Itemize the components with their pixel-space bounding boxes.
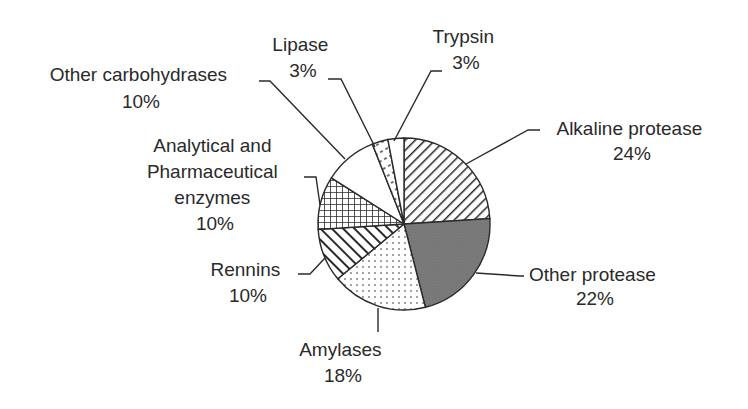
label-amylases: Amylases 18%: [299, 339, 387, 386]
label-other-carbohydrases: Other carbohydrases 10%: [50, 64, 233, 112]
leader-trypsin: [394, 71, 442, 141]
pie-slices: [318, 138, 490, 310]
label-rennins: Rennins 10%: [211, 259, 286, 306]
leader-lipase: [328, 79, 375, 147]
leader-rennins: [298, 258, 325, 274]
label-trypsin: Trypsin 3%: [433, 26, 500, 73]
leader-other-protease: [476, 273, 524, 276]
pie-slice-alkaline-protease: [404, 138, 490, 224]
leader-analytical: [304, 177, 320, 205]
label-lipase: Lipase 3%: [272, 34, 333, 81]
leader-alkaline: [466, 130, 540, 164]
label-other-protease: Other protease 22%: [529, 264, 661, 309]
pie-chart: Alkaline protease 24% Other protease 22%…: [0, 0, 748, 409]
label-analytical-pharmaceutical: Analytical and Pharmaceutical enzymes 10…: [147, 135, 283, 234]
label-alkaline-protease: Alkaline protease 24%: [556, 118, 707, 164]
